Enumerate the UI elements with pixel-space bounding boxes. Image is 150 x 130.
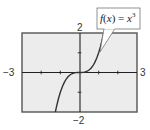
y-min-label: −2	[73, 115, 85, 126]
graph-figure: −3 3 2 −2 f(x) = x3	[0, 0, 150, 130]
x-min-label: −3	[3, 67, 15, 78]
x-max-label: 3	[140, 67, 146, 78]
function-label: f(x) = x3	[100, 11, 136, 25]
pointer-mask	[105, 28, 115, 30]
y-max-label: 2	[77, 22, 83, 33]
fn-equals: =	[115, 12, 127, 24]
fn-exponent: 3	[132, 11, 136, 19]
